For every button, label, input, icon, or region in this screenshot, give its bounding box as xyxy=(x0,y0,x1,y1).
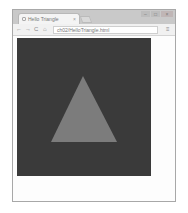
browser-toolbar: ← → C ⌂ ch02/HelloTriangle.html ≡ xyxy=(13,24,175,36)
maximize-button[interactable]: □ xyxy=(151,11,160,17)
page-icon xyxy=(22,17,26,21)
title-bar: Hello Triangle × – □ × xyxy=(13,10,175,24)
close-button[interactable]: × xyxy=(161,11,173,17)
forward-arrow-icon[interactable]: → xyxy=(25,26,31,33)
webgl-canvas[interactable] xyxy=(17,38,151,176)
minimize-button[interactable]: – xyxy=(141,11,150,17)
back-arrow-icon[interactable]: ← xyxy=(16,26,22,33)
tab-title: Hello Triangle xyxy=(28,16,59,22)
address-bar[interactable]: ch02/HelloTriangle.html xyxy=(53,26,158,34)
window-controls: – □ × xyxy=(141,11,173,17)
browser-window: Hello Triangle × – □ × ← → C ⌂ ch02/Hell… xyxy=(12,9,176,202)
triangle-drawing xyxy=(17,38,151,176)
new-tab-button[interactable] xyxy=(80,16,93,23)
home-icon[interactable]: ⌂ xyxy=(43,26,47,33)
tab-close-icon[interactable]: × xyxy=(73,14,76,24)
triangle-shape xyxy=(51,76,117,142)
menu-icon[interactable]: ≡ xyxy=(166,26,172,33)
tab-hello-triangle[interactable]: Hello Triangle × xyxy=(18,13,80,24)
reload-icon[interactable]: C xyxy=(34,26,38,33)
